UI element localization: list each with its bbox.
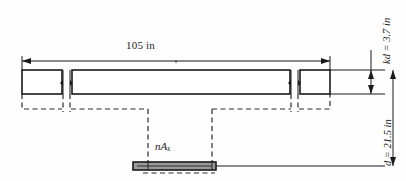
neutral-axis-depth-label: kd = 3.7 in xyxy=(381,18,392,64)
flange-segment-right xyxy=(300,70,330,94)
kd-dimension xyxy=(368,50,374,94)
d-arrowhead-top-icon xyxy=(390,70,396,79)
flange-width-dimension xyxy=(22,56,330,70)
flange-segment-middle xyxy=(72,70,290,94)
arrowhead-right-icon xyxy=(321,58,330,64)
flange-segment-left xyxy=(22,70,62,94)
steel-area-symbol: nA xyxy=(155,140,167,152)
flange-width-label: 105 in xyxy=(126,39,155,51)
dashed-right-stub xyxy=(299,94,330,109)
dashed-section-outline xyxy=(22,94,330,173)
diagram-canvas xyxy=(0,0,406,181)
steel-area-label: nAs xyxy=(155,140,170,153)
kd-arrowhead-bottom-icon xyxy=(368,85,374,94)
dashed-left-stub xyxy=(22,94,62,109)
effective-depth-label: d = 21.5 in xyxy=(382,119,393,166)
steel-area-subscript: s xyxy=(167,144,170,153)
transformed-section-diagram: 105 in nAs kd = 3.7 in d = 21.5 in xyxy=(0,0,406,181)
kd-arrowhead-top-icon xyxy=(368,70,374,79)
arrowhead-left-icon xyxy=(22,58,31,64)
